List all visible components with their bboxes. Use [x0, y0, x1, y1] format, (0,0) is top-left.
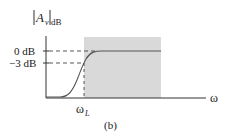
y-axis-label: A v dB	[34, 10, 62, 27]
svg-text:ω: ω	[76, 102, 84, 116]
cutoff-label: ω L	[76, 102, 90, 118]
svg-text:L: L	[84, 109, 90, 118]
label-0db: 0 dB	[14, 45, 35, 57]
figure-caption: (b)	[104, 119, 117, 132]
svg-text:v: v	[45, 18, 49, 27]
label-minus3db: −3 dB	[9, 57, 36, 69]
svg-text:dB: dB	[51, 17, 62, 27]
passband-shade	[84, 37, 161, 98]
high-pass-response-diagram: A v dB 0 dB −3 dB ω L ω (b)	[0, 0, 234, 138]
x-axis-label: ω	[210, 91, 218, 105]
svg-text:A: A	[35, 10, 44, 25]
